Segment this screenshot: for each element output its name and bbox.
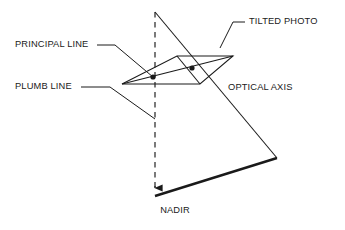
photo-diagonal-line xyxy=(177,56,200,84)
label-nadir: NADIR xyxy=(160,205,190,215)
principal-point-marker xyxy=(189,65,194,70)
diagram-canvas: PRINCIPAL LINE PLUMB LINE TILTED PHOTO O… xyxy=(0,0,345,230)
tilted-photo-diagram: PRINCIPAL LINE PLUMB LINE TILTED PHOTO O… xyxy=(0,0,345,230)
label-optical-axis: OPTICAL AXIS xyxy=(228,82,293,92)
label-plumb-line: PLUMB LINE xyxy=(15,81,72,91)
label-tilted-photo: TILTED PHOTO xyxy=(249,16,318,26)
ground-line xyxy=(155,158,277,196)
plumb-line-leader xyxy=(81,87,155,119)
tilted-photo-leader xyxy=(220,22,245,48)
label-principal-line: PRINCIPAL LINE xyxy=(15,39,88,49)
